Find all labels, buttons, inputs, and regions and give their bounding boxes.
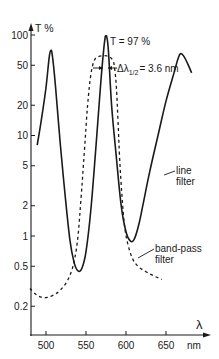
x-tick-label: 650 [158, 340, 175, 351]
bandpass-label-2: filter [155, 254, 175, 265]
band-pass-filter-curve [30, 56, 162, 298]
x-axis-arrow [203, 333, 211, 338]
transmission-chart: 1005020105210.50.2 500550600650 T % λ nm… [0, 0, 219, 359]
y-axis-arrow [29, 23, 34, 31]
peak-annotation: T = 97 % [110, 36, 150, 47]
y-tick-label: 10 [17, 130, 29, 141]
fwhm-annotation: Δλ1/2= 3.6 nm [117, 63, 179, 76]
line-filter-label-1: line [176, 165, 192, 176]
x-tick-label: 600 [118, 340, 135, 351]
x-tick-label: 500 [38, 340, 55, 351]
x-tick-label: 550 [78, 340, 95, 351]
line-filter-label-2: filter [176, 176, 196, 187]
bandpass-label-1: band-pass [155, 243, 202, 254]
x-ticks: 500550600650 [38, 331, 175, 351]
y-tick-label: 1 [22, 231, 28, 242]
line-filter-leader [164, 171, 175, 175]
y-tick-label: 2 [22, 200, 28, 211]
y-tick-label: 0.2 [14, 301, 28, 312]
y-tick-label: 100 [11, 30, 28, 41]
y-tick-label: 0.5 [14, 261, 28, 272]
y-axis-label: T % [35, 22, 53, 34]
bandpass-leader [138, 249, 154, 258]
y-tick-label: 20 [17, 100, 29, 111]
x-axis-label: λ [196, 317, 203, 332]
y-tick-label: 50 [17, 60, 29, 71]
x-axis-unit: nm [187, 340, 201, 351]
y-tick-label: 5 [22, 160, 28, 171]
